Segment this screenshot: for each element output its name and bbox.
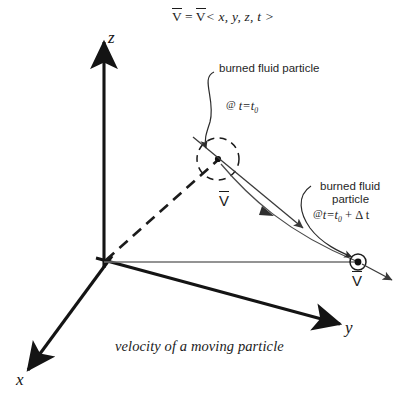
velocity-label-later-text: V (352, 272, 362, 289)
velocity-label-initial-text: V (219, 192, 229, 209)
y-axis-line (96, 258, 340, 324)
annotation-initial-at-symbol: @ (226, 99, 236, 110)
axis-group (28, 42, 340, 370)
x-axis-line (28, 256, 112, 370)
annotation-later-time: @t=t0 + Δ t (313, 208, 369, 225)
velocity-vector-initial (193, 137, 303, 228)
position-vector-dashed (106, 160, 218, 260)
velocity-vector-later (362, 264, 392, 280)
velocity-diagram: V=V< x, y, z, t > z y x burned fluid par… (0, 0, 407, 402)
x-axis-label: x (16, 370, 24, 390)
trajectory-arrowhead (259, 206, 274, 216)
velocity-label-later: V (352, 272, 362, 289)
annotation-later-at-symbol: @ (313, 208, 323, 219)
y-axis-label: y (345, 318, 353, 338)
annotation-initial-time-sub: 0 (254, 106, 258, 115)
annotation-later-time-extra: + Δ t (342, 208, 369, 222)
annotation-initial-title: burned fluid particle (219, 62, 319, 75)
equation-arguments: < x, y, z, t > (206, 9, 274, 24)
annotation-initial-time: @ t=t0 (226, 99, 258, 116)
figure-caption: velocity of a moving particle (115, 338, 284, 355)
equation-lhs: V (172, 9, 182, 25)
equation-equals: = (185, 9, 193, 24)
annotation-later-title-line2: particle (332, 193, 369, 206)
annotation-initial-time-expr: t=t (239, 99, 254, 113)
particle-later-dot (355, 259, 362, 266)
velocity-field-equation: V=V< x, y, z, t > (172, 9, 274, 25)
velocity-label-initial: V (219, 192, 229, 209)
equation-rhs: V (196, 9, 206, 25)
annotation-later-time-expr: t=t (323, 208, 338, 222)
leader-line-initial (205, 72, 214, 148)
z-axis-label: z (108, 28, 115, 48)
annotation-later-title-line1: burned fluid (320, 180, 380, 193)
